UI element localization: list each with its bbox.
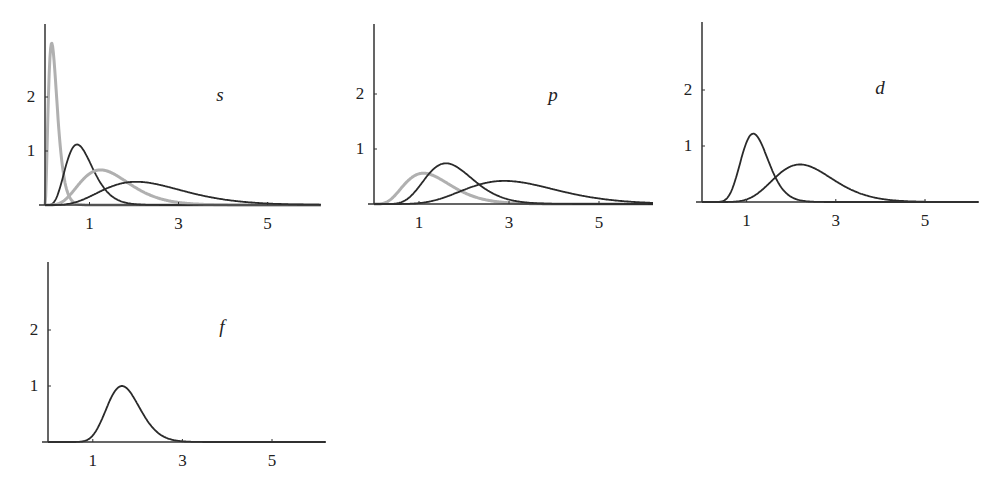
x-tick-label: 1 [89, 451, 98, 471]
y-tick-label: 2 [30, 320, 39, 340]
plot-area [0, 0, 1000, 491]
axes [42, 262, 324, 442]
panel-title: f [219, 316, 224, 338]
x-tick-label: 5 [268, 451, 277, 471]
x-tick-label: 3 [178, 451, 187, 471]
series-curve-1 [48, 386, 326, 442]
y-tick-label: 1 [30, 376, 39, 396]
